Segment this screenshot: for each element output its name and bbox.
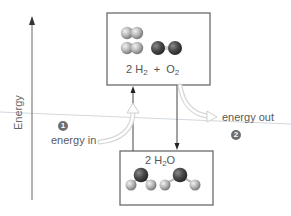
diagram-graphics: [0, 0, 291, 216]
o2-symbol: O: [166, 63, 175, 75]
reaction-down-arrow-icon: [175, 85, 180, 150]
h2-subscript: 2: [143, 68, 147, 77]
reactants-formula: 2 H2 + O2: [126, 64, 179, 77]
energy-in-label: energy in: [51, 135, 96, 146]
step-1-badge: 1: [58, 121, 68, 131]
h2o-coefficient: 2 H: [145, 154, 162, 166]
step-2-badge: 2: [231, 130, 241, 140]
o2-subscript: 2: [175, 68, 179, 77]
h2-coefficient: 2 H: [126, 63, 143, 75]
energy-axis-label: Energy: [12, 95, 24, 130]
energy-out-arrow-icon: [180, 86, 217, 122]
energy-axis-arrow-icon: [29, 16, 35, 200]
energy-out-label: energy out: [222, 112, 274, 123]
energy-diagram: Energy 2 H2 + O2 2 H2O 1 energy in 2 ene…: [0, 0, 291, 216]
h2o-tail: O: [167, 154, 176, 166]
plus-sign: +: [154, 63, 160, 75]
products-formula: 2 H2O: [145, 155, 175, 168]
